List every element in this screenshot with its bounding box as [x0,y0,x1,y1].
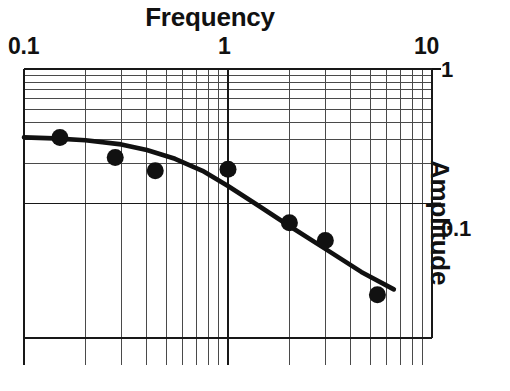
data-point [317,232,334,249]
data-point [220,161,237,178]
response-curve [24,137,394,289]
data-point [147,162,164,179]
plot-canvas [0,0,510,391]
data-point [51,129,68,146]
data-point [281,214,298,231]
axis-tick-marks [432,69,441,204]
data-point [369,286,386,303]
chart-figure: Frequency 0.1 1 10 1 0.1 Amplitude [0,0,510,391]
data-point [107,149,124,166]
